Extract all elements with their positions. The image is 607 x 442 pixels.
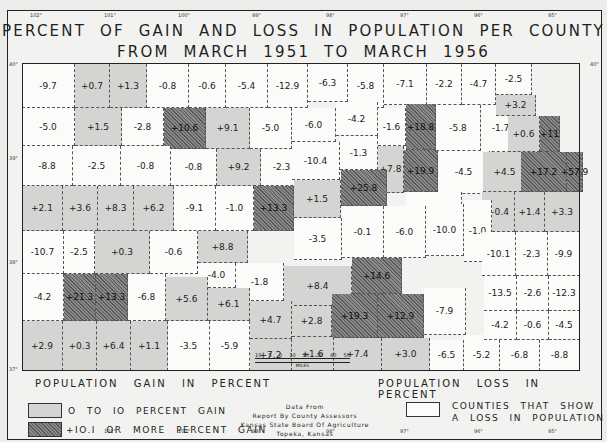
county-cell: -5.0 — [250, 108, 292, 149]
latitude-label: 39° — [9, 155, 18, 161]
county-cell: +10.6 — [164, 108, 206, 149]
county-value: +21.3 — [66, 292, 94, 302]
county-cell: +9.1 — [206, 108, 250, 149]
county-value: -6.5 — [438, 350, 456, 360]
county-cell: -6.8 — [500, 340, 540, 371]
legend-label-loss-1: COUNTIES THAT SHOW — [452, 401, 595, 411]
county-value: -2.6 — [524, 288, 542, 298]
county-value: +8.8 — [212, 242, 234, 252]
latitude-label: 37° — [9, 366, 18, 372]
county-value: -10.1 — [487, 249, 510, 259]
county-value: -10.4 — [304, 156, 327, 166]
county-value: +0.3 — [111, 247, 133, 257]
county-cell: -12.9 — [268, 64, 308, 108]
county-value: -5.8 — [449, 123, 467, 133]
county-cell: -0.8 — [121, 146, 171, 186]
county-value: -4.5 — [455, 167, 473, 177]
county-value: -0.6 — [198, 81, 216, 91]
scale-unit: MILES — [255, 363, 350, 368]
county-cell: -2.5 — [64, 231, 95, 274]
county-cell: -0.8 — [147, 64, 189, 108]
county-cell: -13.5 — [484, 276, 517, 311]
county-value: -0.6 — [165, 247, 183, 257]
county-cell: -5.9 — [210, 321, 250, 371]
county-cell: -3.5 — [294, 218, 342, 260]
county-value: +9.1 — [217, 123, 239, 133]
county-value: +4.7 — [260, 315, 282, 325]
county-cell: -5.4 — [226, 64, 268, 108]
county-value: +13.3 — [98, 292, 126, 302]
county-cell: -0.6 — [150, 231, 198, 274]
county-value: -6.3 — [319, 78, 337, 88]
longitude-label: 95° — [548, 428, 557, 434]
county-cell: +0.3 — [95, 231, 150, 274]
county-cell: +4.7 — [250, 301, 292, 339]
county-value: -5.2 — [473, 350, 491, 360]
county-value: +57.9 — [561, 167, 589, 177]
county-value: +0.7 — [81, 81, 103, 91]
county-cell: +9.2 — [217, 149, 261, 186]
county-cell: +1.1 — [131, 321, 168, 371]
county-value: +1.3 — [117, 81, 139, 91]
county-cell: +6.2 — [134, 186, 174, 231]
longitude-label: 102° — [30, 12, 42, 18]
county-cell: -9.1 — [174, 186, 216, 231]
longitude-label: 97° — [400, 428, 409, 434]
source-line: Kansas State Board Of Agriculture — [240, 420, 370, 429]
county-value: -6.8 — [511, 350, 529, 360]
county-cell: +3.3 — [545, 192, 580, 232]
source-line: Data From — [240, 402, 370, 411]
county-value: -4.7 — [470, 79, 488, 89]
county-cell: +1.5 — [75, 108, 122, 146]
source-line: Report By County Assessors — [240, 411, 370, 420]
county-value: +0.3 — [69, 341, 91, 351]
county-value: -0.8 — [185, 162, 203, 172]
source-line: Topeka, Kansas — [240, 429, 370, 438]
county-value: +2.1 — [31, 203, 53, 213]
scale-tick: 20 — [303, 352, 309, 358]
map-title-line1: PERCENT OF GAIN AND LOSS IN POPULATION P… — [0, 22, 607, 40]
county-cell: +13.3 — [96, 274, 128, 321]
county-value: -10.0 — [433, 225, 456, 235]
latitude-label: 40° — [590, 61, 599, 67]
county-value: +5.6 — [176, 294, 198, 304]
county-cell: -6.0 — [384, 206, 426, 258]
county-value: -4.2 — [34, 292, 52, 302]
county-value: -1.6 — [383, 122, 401, 132]
county-value: +6.4 — [103, 341, 125, 351]
county-value: -0.8 — [137, 161, 155, 171]
county-cell: -5.2 — [464, 340, 500, 371]
county-value: -4.2 — [491, 320, 509, 330]
county-value: +11 — [540, 129, 559, 139]
county-value: +6.2 — [143, 203, 165, 213]
county-cell: +19.9 — [404, 150, 438, 192]
longitude-label: 99° — [252, 12, 261, 18]
county-value: +12.9 — [387, 311, 415, 321]
legend-label-loss-2: A LOSS IN POPULATION — [452, 413, 605, 423]
county-value: -3.5 — [309, 234, 327, 244]
county-cell: +6.4 — [97, 321, 131, 371]
county-cell: -0.1 — [342, 206, 384, 258]
county-cell: -2.6 — [517, 276, 549, 311]
county-value: +8.4 — [307, 281, 329, 291]
county-value: -6.0 — [305, 120, 323, 130]
county-value: +3.6 — [69, 203, 91, 213]
scale-tick: 10 — [255, 352, 261, 358]
county-cell: -1.3 — [340, 136, 378, 170]
county-cell: +3.2 — [496, 95, 536, 116]
county-value: +3.3 — [551, 207, 573, 217]
latitude-label: 40° — [9, 61, 18, 67]
county-cell: +6.1 — [208, 288, 250, 321]
county-cell: +2.9 — [22, 321, 63, 371]
longitude-label: 95° — [548, 12, 557, 18]
county-value: -4.2 — [348, 114, 366, 124]
county-value: -9.9 — [555, 249, 573, 259]
county-cell: +2.8 — [292, 306, 332, 337]
county-value: +8.3 — [105, 203, 127, 213]
county-value: -5.9 — [221, 341, 239, 351]
county-value: -6.8 — [138, 292, 156, 302]
county-value: -5.4 — [238, 81, 256, 91]
county-cell: +3.0 — [382, 338, 430, 371]
county-cell: -1.6 — [378, 108, 406, 146]
scale-tick: 5 — [269, 352, 272, 358]
